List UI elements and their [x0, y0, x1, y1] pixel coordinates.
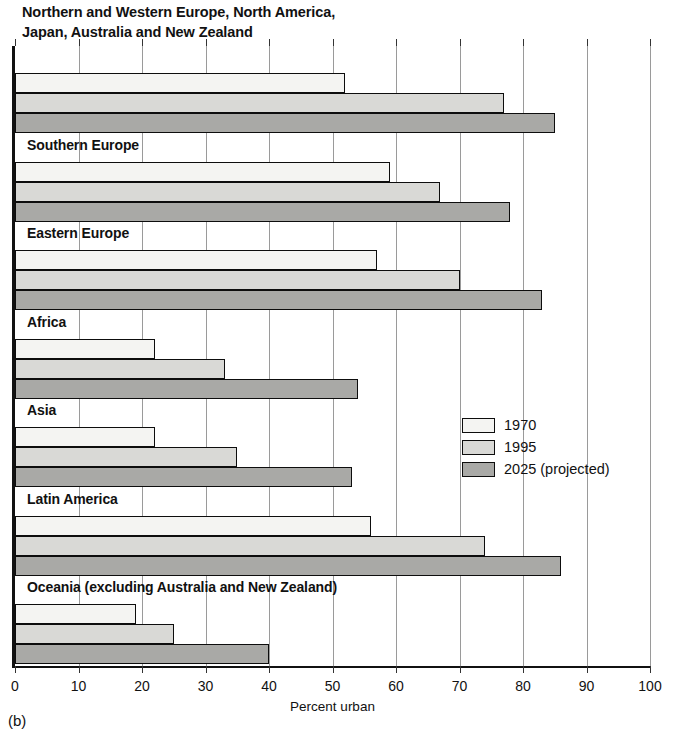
x-tick-label: 60 — [388, 678, 404, 694]
x-axis-title: Percent urban — [15, 699, 650, 714]
x-tick-label: 50 — [325, 678, 341, 694]
bar-group — [15, 46, 650, 135]
bar-group: Africa — [15, 312, 650, 401]
x-tick-label: 80 — [515, 678, 531, 694]
x-tick — [79, 666, 80, 673]
bar-1995 — [15, 182, 440, 202]
gridline — [650, 46, 651, 666]
bar-1970 — [15, 250, 377, 270]
legend-swatch-1970 — [462, 418, 495, 433]
x-tick-label: 20 — [134, 678, 150, 694]
bar-group: Latin America — [15, 489, 650, 578]
x-tick-label: 70 — [452, 678, 468, 694]
x-tick-top — [142, 39, 143, 46]
x-tick-top — [269, 39, 270, 46]
x-tick — [269, 666, 270, 673]
figure-panel: Northern and Western Europe, North Ameri… — [0, 0, 685, 750]
bar-1995 — [15, 359, 225, 379]
x-tick-top — [333, 39, 334, 46]
x-tick-top — [396, 39, 397, 46]
x-tick-top — [523, 39, 524, 46]
legend-label-1995: 1995 — [504, 439, 536, 455]
legend-swatch-1995 — [462, 440, 495, 455]
bar-1970 — [15, 604, 136, 624]
bar-1995 — [15, 93, 504, 113]
bar-1995 — [15, 270, 460, 290]
x-tick-label: 0 — [11, 678, 19, 694]
bar-group: Eastern Europe — [15, 223, 650, 312]
bar-2025 — [15, 467, 352, 487]
x-tick — [142, 666, 143, 673]
legend-label-2025: 2025 (projected) — [504, 461, 610, 477]
legend-item-2025: 2025 (projected) — [462, 458, 610, 480]
chart-legend: 1970 1995 2025 (projected) — [462, 414, 610, 480]
bar-1970 — [15, 162, 390, 182]
x-tick — [396, 666, 397, 673]
x-tick-top — [650, 39, 651, 46]
x-tick — [587, 666, 588, 673]
x-tick-top — [79, 39, 80, 46]
x-tick-label: 90 — [579, 678, 595, 694]
bar-group: Southern Europe — [15, 135, 650, 224]
x-tick-top — [206, 39, 207, 46]
x-axis-line — [12, 666, 650, 668]
x-tick-top — [15, 39, 16, 46]
bar-1970 — [15, 339, 155, 359]
legend-item-1970: 1970 — [462, 414, 610, 436]
legend-label-1970: 1970 — [504, 417, 536, 433]
x-tick-label: 30 — [198, 678, 214, 694]
figure-caption: (b) — [8, 712, 26, 729]
x-tick-label: 10 — [71, 678, 87, 694]
x-tick-top — [587, 39, 588, 46]
bar-1970 — [15, 427, 155, 447]
x-tick-label: 40 — [261, 678, 277, 694]
bar-1970 — [15, 73, 345, 93]
x-tick-label: 100 — [638, 678, 661, 694]
bar-2025 — [15, 290, 542, 310]
x-tick — [460, 666, 461, 673]
bar-group-label: Africa — [27, 314, 66, 330]
x-tick — [523, 666, 524, 673]
bar-group-label: Asia — [27, 402, 56, 418]
bar-1995 — [15, 536, 485, 556]
legend-swatch-2025 — [462, 462, 495, 477]
bar-1970 — [15, 516, 371, 536]
x-tick-top — [460, 39, 461, 46]
x-tick — [333, 666, 334, 673]
x-tick — [15, 666, 16, 673]
bar-2025 — [15, 202, 510, 222]
bar-2025 — [15, 556, 561, 576]
bar-group-label: Latin America — [27, 491, 118, 507]
bar-1995 — [15, 624, 174, 644]
bar-2025 — [15, 379, 358, 399]
bar-2025 — [15, 644, 269, 664]
bar-group-label: Eastern Europe — [27, 225, 129, 241]
chart-title: Northern and Western Europe, North Ameri… — [22, 2, 542, 42]
bar-group-label: Southern Europe — [27, 137, 139, 153]
bar-1995 — [15, 447, 237, 467]
bar-group: Oceania (excluding Australia and New Zea… — [15, 577, 650, 666]
x-tick — [650, 666, 651, 673]
plot-area: 0102030405060708090100 Percent urban Sou… — [15, 46, 650, 666]
bar-2025 — [15, 113, 555, 133]
legend-item-1995: 1995 — [462, 436, 610, 458]
bar-group-label: Oceania (excluding Australia and New Zea… — [27, 579, 337, 595]
x-tick — [206, 666, 207, 673]
